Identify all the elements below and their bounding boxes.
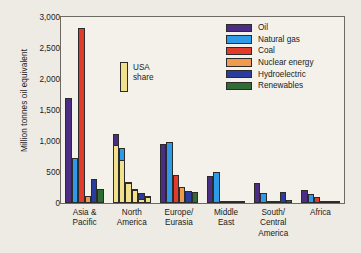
y-axis-tick-label: 0 xyxy=(26,199,60,208)
legend-label: Oil xyxy=(258,23,268,32)
y-axis-tick-label: 1,500 xyxy=(26,106,60,115)
usa-share-callout: USA share xyxy=(120,62,153,92)
x-axis-group-label: Asia & Pacific xyxy=(61,208,108,229)
legend-item: Natural gas xyxy=(226,34,314,46)
legend-swatch xyxy=(226,24,252,32)
x-axis-group-label: Middle East xyxy=(203,208,250,229)
y-axis-tick-label: 3,000 xyxy=(26,13,60,22)
bar-group xyxy=(155,17,202,203)
bar xyxy=(213,172,219,203)
legend-item: Nuclear energy xyxy=(226,57,314,69)
bar xyxy=(78,28,84,203)
legend-label: Natural gas xyxy=(258,35,300,44)
legend-item: Renewables xyxy=(226,80,314,92)
legend-swatch xyxy=(226,70,252,78)
usa-share-bar xyxy=(145,197,151,203)
bar xyxy=(97,189,103,203)
bar xyxy=(333,201,339,203)
usa-share-swatch xyxy=(120,62,128,92)
chart-legend: OilNatural gasCoalNuclear energyHydroele… xyxy=(226,22,314,92)
x-axis-group-label: South/ Central America xyxy=(250,208,297,239)
legend-label: Renewables xyxy=(258,81,303,90)
legend-item: Oil xyxy=(226,22,314,34)
legend-label: Nuclear energy xyxy=(258,58,314,67)
y-axis-tick-labels: 3,0002,5002,0001,5001,0005000 xyxy=(22,17,60,203)
legend-swatch xyxy=(226,35,252,43)
energy-consumption-bar-chart: Million tonnes oil equivalent 3,0002,500… xyxy=(0,0,361,253)
bar xyxy=(286,200,292,203)
bar xyxy=(239,201,245,203)
bar-group xyxy=(108,17,155,203)
y-axis-tick-label: 2,000 xyxy=(26,75,60,84)
legend-label: Coal xyxy=(258,46,275,55)
legend-swatch xyxy=(226,47,252,55)
legend-label: Hydroelectric xyxy=(258,70,306,79)
bar xyxy=(192,192,198,203)
legend-item: Hydroelectric xyxy=(226,68,314,80)
legend-swatch xyxy=(226,58,252,66)
y-axis-tick-label: 1,000 xyxy=(26,137,60,146)
legend-swatch xyxy=(226,82,252,90)
bar-group xyxy=(61,17,108,203)
x-axis-group-label: North America xyxy=(108,208,155,229)
x-axis-group-label: Africa xyxy=(297,208,344,218)
usa-share-label: USA share xyxy=(133,63,153,84)
x-axis-group-label: Europe/ Eurasia xyxy=(155,208,202,229)
legend-item: Coal xyxy=(226,45,314,57)
y-axis-tick-label: 2,500 xyxy=(26,44,60,53)
y-axis-tick-label: 500 xyxy=(26,168,60,177)
